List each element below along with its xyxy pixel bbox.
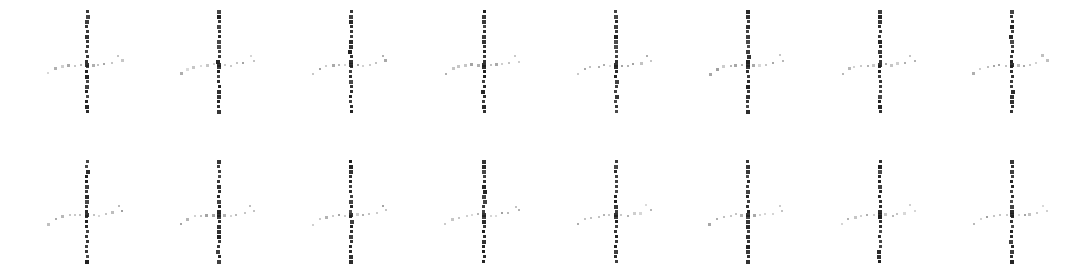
glyph-dot xyxy=(746,85,750,89)
glyph-dot xyxy=(85,190,88,193)
glyph-dot xyxy=(332,215,334,217)
glyph-dot xyxy=(1010,255,1013,258)
glyph-dot xyxy=(375,62,377,64)
glyph-dot xyxy=(993,65,995,67)
glyph-dot xyxy=(615,190,618,193)
glyph-dot xyxy=(1010,100,1014,104)
glyph-dot xyxy=(349,100,352,103)
glyph-dot xyxy=(253,210,255,212)
glyph-dot xyxy=(349,245,352,248)
glyph-dot xyxy=(598,216,600,218)
glyph-dot xyxy=(614,255,617,258)
glyph-dot xyxy=(344,64,346,66)
glyph-dot xyxy=(615,225,618,228)
glyph-dot xyxy=(1011,225,1014,228)
glyph-dot xyxy=(1005,65,1007,67)
glyph-dot xyxy=(781,210,783,212)
glyph-dot xyxy=(482,230,485,233)
glyph-dot xyxy=(740,214,743,217)
glyph-dot xyxy=(878,75,881,78)
glyph-dot xyxy=(482,80,485,83)
glyph-dot xyxy=(1010,213,1014,217)
glyph-dot xyxy=(218,205,221,208)
glyph-dot xyxy=(841,223,843,225)
glyph-dot xyxy=(1010,180,1013,183)
glyph-dot xyxy=(85,25,88,28)
glyph-dot xyxy=(483,50,486,53)
glyph-dot xyxy=(1010,80,1013,83)
glyph-dot xyxy=(350,90,353,93)
glyph-dot xyxy=(1010,205,1014,209)
glyph-dot xyxy=(194,215,196,217)
glyph-dot xyxy=(385,209,387,211)
glyph-dot xyxy=(362,214,364,216)
glyph-dot xyxy=(74,65,76,67)
glyph-dot xyxy=(879,30,882,33)
glyph-dot xyxy=(1011,195,1014,198)
glyph-dot xyxy=(85,90,88,93)
glyph-dot xyxy=(1009,240,1013,244)
glyph-dot xyxy=(909,55,911,57)
glyph-dot xyxy=(105,213,107,215)
glyph-dot xyxy=(615,260,618,263)
glyph-dot xyxy=(746,195,749,198)
glyph-dot xyxy=(350,55,353,58)
glyph-dot xyxy=(86,40,89,43)
glyph-dot xyxy=(980,218,982,220)
glyph-dot xyxy=(615,95,619,99)
glyph-dot xyxy=(879,220,882,223)
glyph-dot xyxy=(482,220,486,224)
glyph-dot xyxy=(218,255,221,258)
glyph-dot xyxy=(854,216,857,219)
glyph-dot xyxy=(758,64,761,67)
glyph-dot xyxy=(979,68,981,70)
glyph-dot xyxy=(746,50,750,54)
glyph-grid-canvas xyxy=(0,0,1087,273)
glyph-dot xyxy=(217,110,221,114)
glyph-dot xyxy=(483,225,486,228)
glyph-dot xyxy=(603,64,605,66)
glyph-dot xyxy=(86,55,89,58)
glyph-dot xyxy=(217,75,220,78)
glyph-dot xyxy=(217,15,221,19)
glyph-dot xyxy=(746,245,750,249)
glyph-dot xyxy=(85,180,88,183)
glyph-dot xyxy=(86,255,89,258)
glyph-dot xyxy=(878,100,881,103)
glyph-dot xyxy=(879,190,882,193)
glyph-dot xyxy=(242,62,244,64)
glyph-dot xyxy=(483,10,486,13)
glyph-dot xyxy=(577,223,579,225)
glyph-dot xyxy=(483,55,486,58)
glyph-dot xyxy=(1010,190,1013,193)
glyph-dot xyxy=(325,65,327,67)
glyph-dot xyxy=(878,165,882,169)
glyph-dot xyxy=(615,50,618,53)
glyph-dot xyxy=(382,55,384,57)
glyph-dot xyxy=(615,30,618,33)
glyph-dot xyxy=(349,63,353,67)
glyph-dot xyxy=(746,170,750,174)
glyph-dot xyxy=(74,214,76,216)
glyph-dot xyxy=(723,216,725,218)
glyph-dot xyxy=(217,180,220,183)
glyph-dot xyxy=(914,60,916,62)
glyph-dot xyxy=(213,63,215,65)
glyph-dot xyxy=(111,62,113,64)
glyph-dot xyxy=(217,200,221,204)
glyph-dot xyxy=(1010,63,1014,67)
glyph-dot xyxy=(482,100,485,103)
glyph-dot xyxy=(878,95,882,99)
glyph-dot xyxy=(986,216,988,218)
glyph-dot xyxy=(879,245,882,248)
glyph-dot xyxy=(482,245,485,248)
glyph-dot xyxy=(217,165,220,168)
glyph-dot xyxy=(1006,214,1008,216)
glyph-dot xyxy=(877,255,881,259)
glyph-dot xyxy=(1011,165,1014,168)
glyph-dot xyxy=(350,30,353,33)
glyph-dot xyxy=(103,63,105,65)
glyph-dot xyxy=(482,213,486,217)
glyph-dot xyxy=(747,20,750,23)
glyph-dot xyxy=(67,64,70,67)
